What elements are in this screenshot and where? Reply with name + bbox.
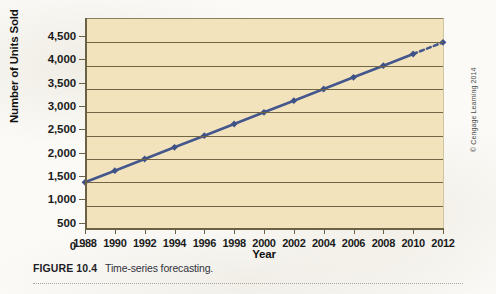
figure-number: FIGURE 10.4 <box>33 262 97 274</box>
caption-divider <box>33 283 463 284</box>
x-axis-tick <box>175 228 176 234</box>
y-axis-tick <box>79 199 85 200</box>
x-axis: 1988199019921994199619982000200220042006… <box>85 228 444 230</box>
x-axis-tick <box>145 228 146 234</box>
y-axis-tick <box>79 59 85 60</box>
y-axis-tick <box>79 153 85 154</box>
gridline <box>85 89 443 90</box>
y-axis-tick <box>79 36 85 37</box>
y-axis-tick-label: 1,000 <box>48 193 76 205</box>
y-axis-tick-label: 3,000 <box>48 100 76 112</box>
y-axis-title: Number of Units Sold <box>8 9 20 123</box>
time-series-chart: Number of Units Sold 05001,0001,5002,000… <box>0 0 496 258</box>
gridline <box>85 206 443 207</box>
y-axis-tick <box>79 176 85 177</box>
y-axis-tick <box>79 223 85 224</box>
figure-caption-text: Time-series forecasting. <box>105 262 213 274</box>
x-axis-tick <box>85 228 86 234</box>
x-axis-tick <box>264 228 265 234</box>
x-axis-tick <box>413 228 414 234</box>
y-axis-tick-label: 2,500 <box>48 123 76 135</box>
y-axis-tick-label: 4,000 <box>48 53 76 65</box>
y-axis-tick-label: 1,500 <box>48 170 76 182</box>
figure-caption: FIGURE 10.4 Time-series forecasting. <box>33 262 213 274</box>
x-axis-tick <box>324 228 325 234</box>
y-axis: 05001,0001,5002,0002,5003,0003,5004,0004… <box>85 18 87 229</box>
copyright-notice: © Cengage Learning 2014 <box>470 67 477 152</box>
gridline <box>85 159 443 160</box>
gridline <box>85 182 443 183</box>
series-line-chart <box>85 19 443 229</box>
y-axis-tick-label: 4,500 <box>48 30 76 42</box>
data-point-marker <box>111 167 118 174</box>
x-axis-tick <box>383 228 384 234</box>
x-axis-tick <box>234 228 235 234</box>
y-axis-tick-label: 3,500 <box>48 77 76 89</box>
data-point-marker <box>290 97 297 104</box>
data-point-marker <box>410 51 417 58</box>
gridline <box>85 136 443 137</box>
y-axis-tick <box>79 106 85 107</box>
plot-area <box>85 18 444 229</box>
gridline <box>85 112 443 113</box>
x-axis-tick <box>294 228 295 234</box>
series-actual-line <box>85 54 413 182</box>
data-point-marker <box>231 121 238 128</box>
x-axis-tick <box>443 228 444 234</box>
x-axis-title: Year <box>85 248 443 260</box>
data-point-marker <box>171 144 178 151</box>
gridline <box>85 42 443 43</box>
y-axis-tick <box>79 83 85 84</box>
gridline <box>85 66 443 67</box>
x-axis-tick <box>204 228 205 234</box>
y-axis-tick-label: 500 <box>57 217 76 229</box>
y-axis-tick <box>79 129 85 130</box>
x-axis-tick <box>354 228 355 234</box>
x-axis-tick <box>115 228 116 234</box>
data-point-marker <box>350 74 357 81</box>
y-axis-tick-label: 2,000 <box>48 147 76 159</box>
series-forecast-line <box>413 42 443 54</box>
